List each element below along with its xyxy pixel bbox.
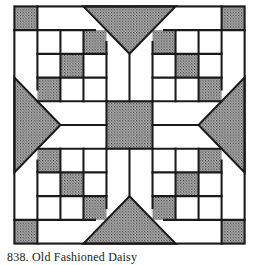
figure-caption: 838. Old Fashioned Daisy [7, 250, 137, 265]
shaded-square [222, 6, 245, 30]
shaded-square [176, 172, 199, 196]
quilt-block-diagram [13, 5, 246, 245]
shaded-square [153, 196, 176, 220]
shaded-square [60, 54, 83, 78]
center-square [106, 101, 152, 148]
shaded-square [153, 30, 176, 54]
shaded-square [199, 149, 222, 173]
shaded-square [199, 78, 222, 102]
shaded-square [83, 30, 106, 54]
shaded-square [176, 54, 199, 78]
shaded-square [60, 172, 83, 196]
shaded-square [83, 196, 106, 220]
shaded-square [37, 149, 60, 173]
shaded-square [37, 78, 60, 102]
shaded-square [222, 220, 245, 244]
shaded-square [14, 220, 37, 244]
shaded-square [14, 6, 37, 30]
